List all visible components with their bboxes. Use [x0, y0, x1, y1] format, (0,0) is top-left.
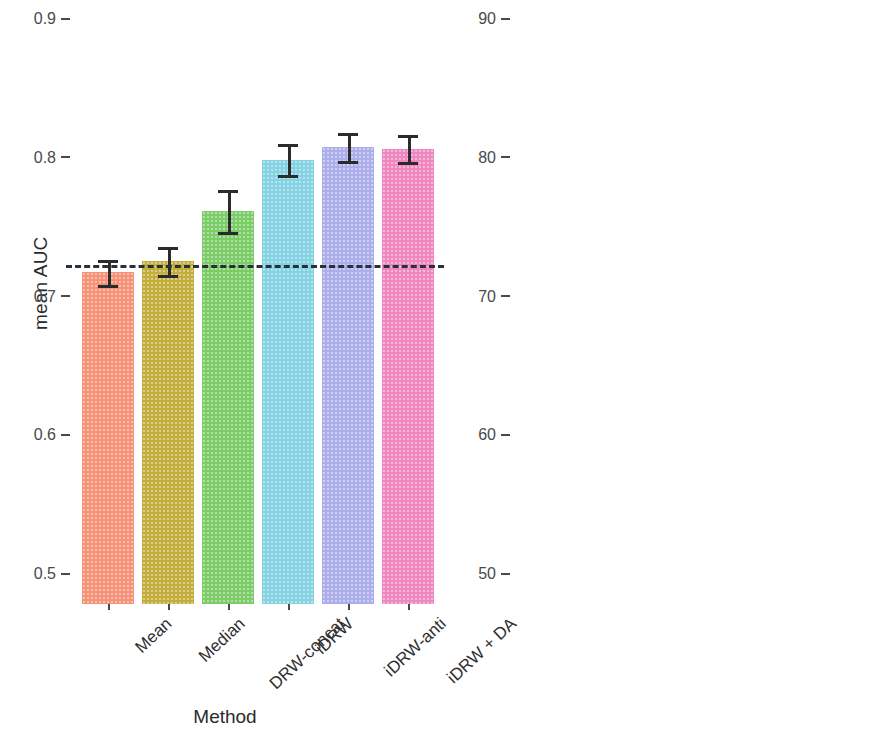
bar-fill [142, 261, 194, 604]
error-bar-cap-upper [218, 190, 238, 193]
y-tick-label: 0.8 [10, 149, 70, 167]
x-tick-label: Median [195, 614, 249, 667]
error-bar-cap-upper [278, 144, 298, 147]
bar-fill [202, 211, 254, 604]
y-tick-label: 0.5 [10, 565, 70, 583]
y-tick-mark [61, 295, 70, 297]
bar [382, 149, 434, 604]
x-tick-label: iDRW-anti [381, 614, 451, 681]
bar [262, 160, 314, 604]
y-tick-mark [61, 434, 70, 436]
panel-mean-auc: mean AUC 0.90.80.70.60.5 MeanMedianDRW-c… [0, 0, 450, 739]
error-bar-cap-upper [158, 247, 178, 250]
y-tick-text: 70 [478, 288, 496, 305]
bar [82, 272, 134, 604]
error-bar-cap-lower [398, 162, 418, 165]
y-tick-label: 90 [452, 10, 510, 28]
x-tick-mark [348, 604, 350, 610]
y-tick-text: 80 [478, 149, 496, 166]
error-bar-cap-lower [338, 161, 358, 164]
figure-bar-charts: mean AUC 0.90.80.70.60.5 MeanMedianDRW-c… [0, 0, 871, 739]
error-bar-line [228, 190, 231, 232]
error-bar-cap-upper [338, 133, 358, 136]
y-tick-text: 0.5 [34, 565, 56, 582]
y-tick-mark [501, 434, 510, 436]
bar-fill [262, 160, 314, 604]
y-tick-text: 0.8 [34, 149, 56, 166]
y-tick-mark [61, 18, 70, 20]
error-bar-cap-lower [158, 275, 178, 278]
y-tick-label: 0.9 [10, 10, 70, 28]
bar-fill [382, 149, 434, 604]
y-tick-label: 80 [452, 149, 510, 167]
y-tick-text: 0.6 [34, 426, 56, 443]
y-tick-text: 0.9 [34, 10, 56, 27]
error-bar-line [168, 247, 171, 275]
x-tick-mark [108, 604, 110, 610]
y-tick-label: 60 [452, 426, 510, 444]
y-tick-text: 90 [478, 10, 496, 27]
error-bar-cap-lower [218, 232, 238, 235]
y-tick-mark [61, 156, 70, 158]
bar [202, 211, 254, 604]
bar-fill [322, 147, 374, 604]
bar [142, 261, 194, 604]
reference-dashed-line [66, 265, 444, 268]
y-tick-mark [61, 573, 70, 575]
bar-fill [82, 272, 134, 604]
x-tick-mark [228, 604, 230, 610]
y-tick-label: 70 [452, 288, 510, 306]
y-tick-mark [501, 295, 510, 297]
x-tick-mark [168, 604, 170, 610]
x-tick-label: Mean [131, 614, 176, 658]
plot-area-auc: MeanMedianDRW-concatiDRWiDRW-antiiDRW + … [78, 0, 438, 604]
panel-mean-accuracy: mean Accuracy(%) 9080706050 MeanMedianDR… [450, 0, 871, 739]
error-bar-line [348, 133, 351, 161]
error-bar-cap-lower [98, 285, 118, 288]
y-tick-mark [501, 18, 510, 20]
y-tick-text: 60 [478, 426, 496, 443]
y-tick-mark [501, 156, 510, 158]
error-bar-line [108, 260, 111, 285]
y-tick-label: 0.6 [10, 426, 70, 444]
x-axis-title-auc: Method [0, 706, 450, 728]
error-bar-cap-upper [398, 135, 418, 138]
y-tick-label: 50 [452, 565, 510, 583]
bar [322, 147, 374, 604]
error-bar-cap-upper [98, 260, 118, 263]
y-axis-title-auc: mean AUC [30, 237, 52, 330]
x-tick-mark [288, 604, 290, 610]
y-tick-label: 0.7 [10, 288, 70, 306]
y-tick-mark [501, 573, 510, 575]
error-bar-cap-lower [278, 175, 298, 178]
y-tick-text: 0.7 [34, 288, 56, 305]
error-bar-line [408, 135, 411, 163]
x-tick-mark [408, 604, 410, 610]
error-bar-line [288, 144, 291, 175]
y-tick-text: 50 [478, 565, 496, 582]
